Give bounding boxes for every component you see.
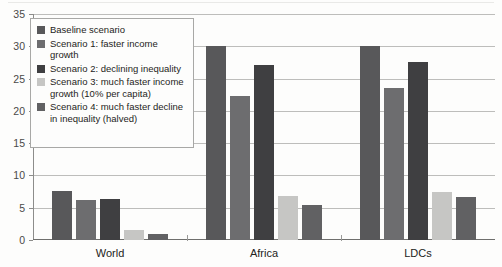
bar <box>100 199 120 240</box>
legend-item: Scenario 3: much faster income growth (1… <box>37 76 188 99</box>
y-axis-tick-label: 30 <box>0 41 25 51</box>
legend-label: Scenario 3: much faster income growth (1… <box>50 76 188 99</box>
legend-label: Scenario 4: much faster decline in inequ… <box>50 101 188 124</box>
scan-artifact-line <box>8 2 494 3</box>
bar <box>278 196 298 240</box>
x-axis-category-label: LDCs <box>341 247 495 259</box>
bar <box>206 46 226 240</box>
legend-label: Scenario 1: faster income growth <box>50 38 188 61</box>
legend-items: Baseline scenarioScenario 1: faster inco… <box>37 24 188 124</box>
gridline <box>33 14 495 15</box>
bar <box>408 62 428 240</box>
legend-swatch-icon <box>37 78 45 86</box>
bar <box>254 65 274 240</box>
y-axis-tick-label: 15 <box>0 138 25 148</box>
y-axis-tick-mark <box>29 240 33 241</box>
y-axis-tick-label: 20 <box>0 106 25 116</box>
group-separator <box>187 235 188 241</box>
bar <box>76 200 96 240</box>
y-axis-tick-label: 5 <box>0 203 25 213</box>
legend-swatch-icon <box>37 26 45 34</box>
legend-label: Scenario 2: declining inequality <box>50 63 181 75</box>
legend-swatch-icon <box>37 40 45 48</box>
legend-item: Baseline scenario <box>37 24 188 36</box>
legend-item: Scenario 4: much faster decline in inequ… <box>37 101 188 124</box>
x-axis-category-label: World <box>33 247 187 259</box>
legend-swatch-icon <box>37 65 45 73</box>
legend-swatch-icon <box>37 103 45 111</box>
chart-page: 05101520253035 WorldAfricaLDCs Baseline … <box>0 0 502 267</box>
bar <box>456 197 476 240</box>
y-axis-tick-label: 0 <box>0 235 25 245</box>
legend-item: Scenario 2: declining inequality <box>37 63 188 75</box>
x-axis-category-label: Africa <box>187 247 341 259</box>
legend: Baseline scenarioScenario 1: faster inco… <box>30 18 194 148</box>
bar <box>302 205 322 240</box>
bar <box>52 191 72 240</box>
bar <box>124 230 144 240</box>
y-axis-tick-label: 35 <box>0 9 25 19</box>
y-axis-tick-label: 25 <box>0 74 25 84</box>
legend-label: Baseline scenario <box>50 24 125 36</box>
bar <box>432 192 452 240</box>
y-axis-tick-label: 10 <box>0 170 25 180</box>
legend-item: Scenario 1: faster income growth <box>37 38 188 61</box>
bar <box>148 234 168 240</box>
bar <box>230 96 250 240</box>
group-separator <box>341 235 342 241</box>
bar <box>360 46 380 240</box>
bar <box>384 88 404 240</box>
